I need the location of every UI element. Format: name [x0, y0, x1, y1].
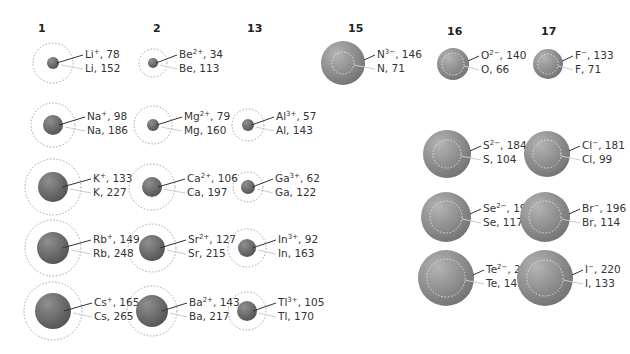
ion-label: S2−, 184: [483, 139, 527, 151]
ion-charge: 3+: [286, 110, 296, 118]
ion-radius-value: , 220: [594, 263, 621, 275]
ion-radius-value: , 133: [587, 49, 614, 61]
atom-leader-line: [161, 127, 182, 131]
ion-symbol: Na: [87, 110, 101, 122]
ion-label: F−, 133: [575, 49, 614, 61]
atom-label: F, 71: [575, 63, 601, 75]
atom-label: Se, 117: [483, 216, 523, 228]
atom-label: S, 104: [483, 153, 517, 165]
atom-label: In, 163: [278, 247, 314, 259]
atom-label: Na, 186: [87, 124, 128, 136]
element-br: Br−, 196Br, 114: [520, 192, 626, 242]
ion-symbol: Se: [483, 202, 496, 214]
ion-radius-value: , 98: [107, 110, 127, 122]
ion-charge: 3−: [385, 48, 395, 56]
ion-label: Be2+, 34: [179, 48, 223, 60]
ion-charge: 3+: [288, 233, 298, 241]
ion-symbol: Ba: [189, 296, 203, 308]
element-sr: Sr2+, 127Sr, 215: [128, 224, 236, 272]
ion-leader-line: [59, 117, 85, 125]
group-label: 17: [541, 25, 556, 38]
atom-leader-line: [164, 189, 185, 193]
atom-label: Ca, 197: [187, 186, 227, 198]
ion-radius-value: , 57: [296, 110, 316, 122]
group-label: 13: [247, 22, 262, 35]
ion-leader-line: [470, 209, 481, 214]
ion-leader-line: [158, 179, 185, 187]
group-label: 1: [38, 22, 46, 35]
ion-radius-value: , 78: [100, 48, 120, 60]
ion-sphere: [520, 192, 570, 242]
atom-label: I, 133: [585, 277, 615, 289]
element-k: K+, 133K, 227: [25, 159, 132, 215]
ion-label: Br−, 196: [582, 202, 626, 214]
atom-leader-line: [61, 65, 83, 69]
atom-leader-line: [256, 127, 274, 131]
ion-symbol: N: [377, 48, 385, 60]
element-mg: Mg2+, 79Mg, 160: [134, 106, 230, 144]
atom-label: N, 71: [377, 62, 405, 74]
atom-label: Sr, 215: [188, 247, 226, 259]
atom-leader-line: [170, 313, 187, 317]
ion-label: Ba2+, 143: [189, 296, 240, 308]
element-rb: Rb+, 149Rb, 248: [25, 220, 140, 276]
atom-leader-line: [167, 250, 186, 254]
ion-radius-value: , 127: [209, 233, 236, 245]
ion-symbol: Cl: [582, 139, 592, 151]
ion-leader-line: [473, 270, 484, 275]
element-i: I−, 220I, 133: [517, 250, 621, 306]
atom-leader-line: [257, 189, 273, 193]
ion-label: Ga3+, 62: [275, 172, 320, 184]
ion-label: Na+, 98: [87, 110, 127, 122]
ion-charge: 2+: [199, 233, 209, 241]
element-list: Li+, 78Li, 152Na+, 98Na, 186K+, 133K, 22…: [24, 41, 626, 340]
ion-symbol: O: [481, 49, 489, 61]
ion-sphere: [423, 130, 471, 178]
ion-sphere: [533, 49, 563, 79]
ion-leader-line: [470, 146, 481, 151]
ion-charge: 3+: [290, 172, 300, 180]
atom-leader-line: [70, 189, 91, 193]
ion-charge: 2+: [201, 172, 211, 180]
ionic-radii-diagram: 1213151617 Li+, 78Li, 152Na+, 98Na, 186K…: [0, 0, 630, 354]
ion-radius-value: , 105: [298, 296, 325, 308]
ion-leader-line: [253, 303, 276, 311]
element-tl: Tl3+, 105Tl, 170: [228, 292, 324, 330]
ion-leader-line: [562, 56, 573, 61]
ion-leader-line: [252, 240, 276, 248]
element-in: In3+, 92In, 163: [228, 229, 318, 267]
ion-sphere: [321, 41, 365, 85]
ion-label: K+, 133: [93, 172, 132, 184]
ion-label: O2−, 140: [481, 49, 526, 61]
ion-charge: 2+: [193, 48, 203, 56]
atom-label: K, 227: [93, 186, 127, 198]
ion-leader-line: [252, 179, 273, 187]
ion-symbol: Mg: [184, 110, 200, 122]
ion-label: Tl3+, 105: [277, 296, 324, 308]
ion-charge: 2−: [497, 263, 507, 271]
atom-label: Li, 152: [85, 62, 120, 74]
ion-symbol: Te: [485, 263, 497, 275]
element-li: Li+, 78Li, 152: [33, 43, 120, 83]
ion-radius-value: , 149: [113, 233, 140, 245]
group-label: 15: [348, 22, 363, 35]
element-al: Al3+, 57Al, 143: [232, 109, 316, 141]
group-label: 2: [153, 22, 161, 35]
ion-charge: 3+: [287, 296, 297, 304]
ion-label: Rb+, 149: [93, 233, 140, 245]
ion-leader-line: [157, 117, 182, 125]
ion-symbol: Rb: [93, 233, 107, 245]
ion-radius-value: , 79: [210, 110, 230, 122]
ion-symbol: Be: [179, 48, 193, 60]
ion-radius-value: , 143: [213, 296, 240, 308]
atom-label: Ga, 122: [275, 186, 316, 198]
ion-leader-line: [57, 55, 83, 63]
ion-symbol: Cs: [94, 296, 107, 308]
ion-sphere: [421, 192, 471, 242]
ion-radius-value: , 184: [500, 139, 527, 151]
element-ba: Ba2+, 143Ba, 217: [127, 286, 240, 336]
element-ca: Ca2+, 106Ca, 197: [129, 164, 238, 210]
ion-charge: 2−: [489, 49, 499, 57]
ion-label: Mg2+, 79: [184, 110, 230, 122]
atom-label: O, 66: [481, 63, 510, 75]
